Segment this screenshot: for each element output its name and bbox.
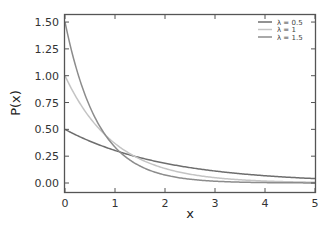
series-line-0 [65, 129, 315, 178]
y-tick-label: 1.25 [35, 43, 60, 56]
y-tick-label: 1.00 [35, 70, 60, 83]
x-tick-label: 5 [312, 197, 319, 210]
y-tick-label: 0.25 [35, 150, 60, 163]
y-tick-label: 1.50 [35, 16, 60, 29]
x-tick-label: 1 [112, 197, 119, 210]
y-axis-label: P(x) [8, 90, 23, 116]
series-line-2 [65, 22, 315, 183]
x-tick-label: 0 [62, 197, 69, 210]
series-line-1 [65, 76, 315, 183]
y-tick-label: 0.00 [35, 177, 60, 190]
x-tick-label: 3 [212, 197, 219, 210]
exponential-distribution-chart: 0123450.000.250.500.751.001.251.50 x P(x… [0, 0, 333, 232]
x-axis-label: x [186, 206, 194, 221]
y-tick-label: 0.50 [35, 123, 60, 136]
x-tick-label: 2 [162, 197, 169, 210]
y-tick-label: 0.75 [35, 97, 60, 110]
legend: λ = 0.5λ = 1λ = 1.5 [258, 19, 303, 42]
legend-label: λ = 1.5 [277, 34, 303, 42]
x-tick-label: 4 [262, 197, 269, 210]
